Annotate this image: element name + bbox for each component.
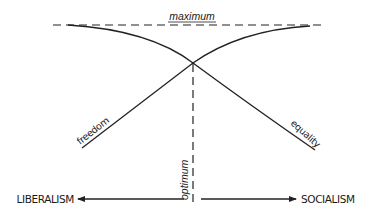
freedom-curve xyxy=(82,26,310,148)
maximum-label-group: maximum xyxy=(168,10,216,22)
socialism-label: SOCIALISM xyxy=(301,193,355,205)
freedom-equality-tradeoff-diagram: maximum freedom equality optimum LIBERAL… xyxy=(0,0,370,219)
optimum-label: optimum xyxy=(178,159,190,200)
maximum-label: maximum xyxy=(169,10,215,22)
equality-curve xyxy=(68,25,315,150)
liberalism-label: LIBERALISM xyxy=(16,193,74,205)
equality-label: equality xyxy=(289,117,324,150)
